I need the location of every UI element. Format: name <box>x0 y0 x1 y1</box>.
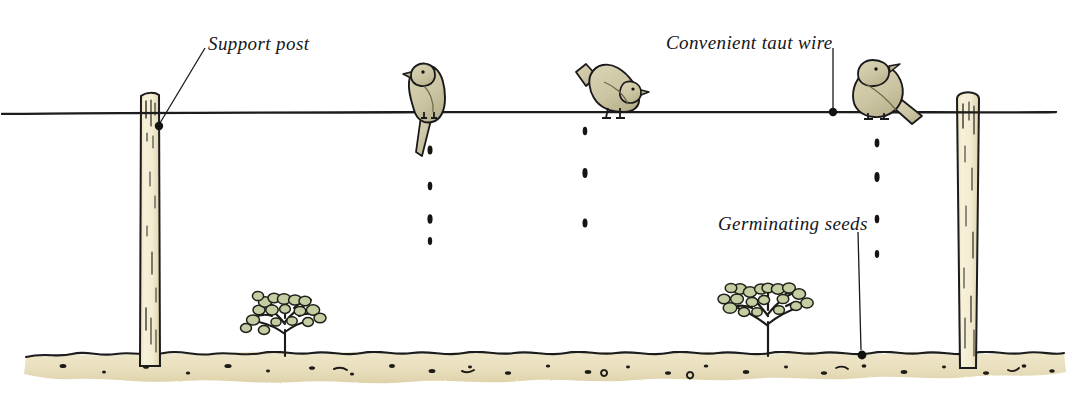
illustration-canvas: Support post Convenient taut wire Germin… <box>0 0 1091 393</box>
anchor-dot-germinating-seeds <box>858 351 867 360</box>
bird-2-beak <box>641 90 649 95</box>
bird-3-head <box>858 60 889 86</box>
label-taut-wire: Convenient taut wire <box>666 33 833 52</box>
seedling-right <box>718 283 813 356</box>
bird-3-eye <box>874 67 877 70</box>
anchor-dot-taut-wire <box>829 108 837 116</box>
seed-column-1 <box>427 145 432 245</box>
leader-line-germinating-seeds <box>858 232 861 350</box>
left-post-body <box>140 93 160 366</box>
bird-3 <box>853 60 922 124</box>
anchor-dot-support-post <box>155 122 163 130</box>
right-support-post <box>957 92 979 368</box>
seed-column-2 <box>582 127 587 228</box>
leader-support-post <box>155 48 205 130</box>
bird-2-head <box>620 81 641 103</box>
seedling-left-leaves <box>241 291 327 334</box>
scene-drawing <box>0 0 1091 393</box>
bird-2-eye <box>631 87 634 90</box>
soil-body <box>24 352 1066 383</box>
label-germinating-seeds: Germinating seeds <box>718 214 868 233</box>
bird-1-beak <box>403 72 411 78</box>
seed-column-3 <box>874 139 879 258</box>
right-post-body <box>957 92 979 368</box>
bird-2 <box>576 64 649 118</box>
leader-germinating-seeds <box>858 232 867 359</box>
ground-soil-band <box>24 352 1066 384</box>
label-support-post: Support post <box>208 34 309 53</box>
left-support-post <box>140 93 160 366</box>
bird-1-eye <box>421 70 424 73</box>
leader-taut-wire <box>829 48 837 116</box>
bird-1-head <box>411 64 435 87</box>
bird-1 <box>403 64 445 156</box>
seedling-left <box>241 291 327 356</box>
